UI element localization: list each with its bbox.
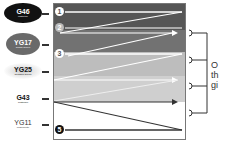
caption-line-1: O [211,60,219,70]
bracket-connector [0,0,226,147]
caption-line-2: th [211,70,219,80]
caption-line-3: gi [211,80,219,90]
caption-text: O th gi [211,60,219,90]
